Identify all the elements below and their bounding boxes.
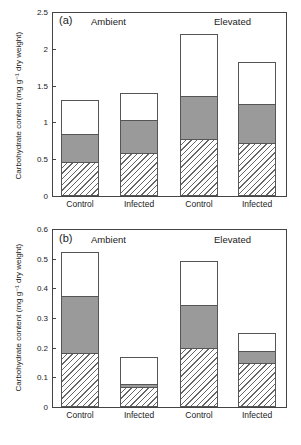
x-label-b: Infected [114, 410, 164, 420]
chart-b: (b) Ambient Elevated Carbohydrate conten… [0, 0, 301, 445]
y-tick-b: 0.3 [37, 314, 48, 323]
bar-elevated-infected-b [238, 0, 276, 407]
x-label-b: Infected [232, 410, 282, 420]
y-tick-b: 0.1 [37, 373, 48, 382]
y-tick-b: 0.2 [37, 344, 48, 353]
bar-elevated-control-b [180, 0, 218, 407]
y-tick-b: 0.5 [37, 255, 48, 264]
bar-ambient-infected-b [120, 0, 158, 407]
y-axis-label-b: Carbohydrate content (mg g⁻¹ dry weight) [14, 242, 23, 392]
y-tick-b: 0 [44, 403, 48, 412]
x-label-b: Control [55, 410, 105, 420]
y-tick-b: 0.6 [37, 225, 48, 234]
bar-ambient-control-b [61, 0, 99, 407]
x-label-b: Control [174, 410, 224, 420]
y-tick-b: 0.4 [37, 284, 48, 293]
